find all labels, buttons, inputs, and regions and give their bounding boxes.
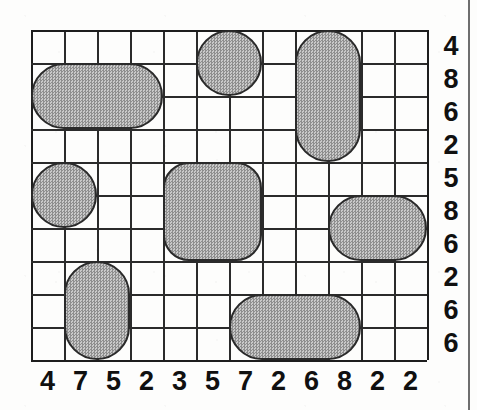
row-clue-3: 6 [434,96,468,129]
column-clue-2: 7 [64,368,97,395]
row-clue-1: 4 [434,30,468,63]
row-clue-7: 6 [434,228,468,261]
page-edge-rule [468,0,470,410]
puzzle-grid[interactable] [31,30,427,360]
row-clue-8: 2 [434,261,468,294]
puzzle-shape-circle-mid-left [31,162,97,228]
column-clue-1: 4 [31,368,64,395]
column-clue-12: 2 [394,368,427,395]
puzzle-page: 475235726822 4862586266 [0,0,477,410]
puzzle-shape-circle-top-center [196,30,262,96]
column-clue-10: 8 [328,368,361,395]
row-clue-9: 6 [434,294,468,327]
column-clue-8: 2 [262,368,295,395]
puzzle-shape-rounded-wide-top-left [31,63,163,129]
column-clue-5: 3 [163,368,196,395]
row-clue-2: 8 [434,63,468,96]
grid-line-horizontal [31,360,427,362]
column-clue-6: 5 [196,368,229,395]
puzzle-shape-rounded-tall-top-right [295,30,361,162]
puzzle-shape-rounded-square-center [163,162,262,261]
grid-line-horizontal [31,129,427,131]
column-clue-9: 6 [295,368,328,395]
row-clue-6: 8 [434,195,468,228]
column-clue-7: 7 [229,368,262,395]
row-clue-5: 5 [434,162,468,195]
row-clue-10: 6 [434,327,468,360]
column-clue-11: 2 [361,368,394,395]
puzzle-shape-rounded-tall-bottom-left [64,261,130,360]
column-clue-3: 5 [97,368,130,395]
puzzle-shape-rounded-wide-mid-right [328,195,427,261]
row-clue-4: 2 [434,129,468,162]
grid-line-vertical [427,30,429,360]
column-clue-4: 2 [130,368,163,395]
puzzle-shape-rounded-wide-bottom-center [229,294,361,360]
